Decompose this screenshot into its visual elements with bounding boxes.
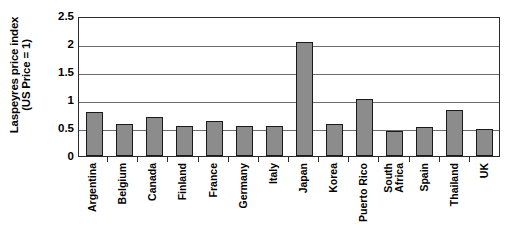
bar[interactable] xyxy=(326,124,343,156)
x-category-label: Argentina xyxy=(88,163,99,212)
bar[interactable] xyxy=(116,124,133,156)
bar-slot xyxy=(169,18,199,156)
x-category-label: Germany xyxy=(238,163,249,209)
x-axis-category-labels: ArgentinaBelgiumCanadaFinlandFranceGerma… xyxy=(78,163,500,247)
x-label-cell: Belgium xyxy=(108,163,138,247)
y-axis-title-line-1: Laspeyres price index xyxy=(8,17,20,134)
bar-slot xyxy=(289,18,319,156)
bar-slot xyxy=(439,18,469,156)
y-axis-title-line-2: (US Price = 1) xyxy=(20,39,32,111)
chart-figure: Laspeyres price index (US Price = 1) 00.… xyxy=(0,0,513,247)
x-category-label-line: Africa xyxy=(394,163,405,193)
bar-slot xyxy=(469,18,499,156)
x-label-cell: Japan xyxy=(289,163,319,247)
y-tick-label: 2 xyxy=(40,39,74,51)
bar-slot xyxy=(319,18,349,156)
y-axis-title: Laspeyres price index (US Price = 1) xyxy=(0,0,40,160)
x-label-cell: Puerto Rico xyxy=(349,163,379,247)
bar-slot xyxy=(229,18,259,156)
bar[interactable] xyxy=(206,121,223,156)
x-category-label: France xyxy=(208,163,219,197)
x-tick-mark xyxy=(168,157,198,162)
x-category-label: UK xyxy=(479,163,490,178)
bar-slot xyxy=(409,18,439,156)
bar[interactable] xyxy=(296,42,313,156)
x-tick-mark xyxy=(470,157,500,162)
x-category-label: Thailand xyxy=(449,163,460,206)
x-label-cell: Finland xyxy=(168,163,198,247)
y-axis-tick-labels: 00.511.522.5 xyxy=(38,0,74,247)
x-tick-mark xyxy=(379,157,409,162)
bar-slot xyxy=(109,18,139,156)
x-category-label-line: Korea xyxy=(328,163,340,193)
x-category-label: SouthAfrica xyxy=(383,163,405,193)
x-tick-mark xyxy=(349,157,379,162)
y-tick-label: 0 xyxy=(40,151,74,163)
x-category-label-line: Thailand xyxy=(448,163,460,206)
bar-series xyxy=(79,18,499,156)
x-tick-mark xyxy=(440,157,470,162)
bar-slot xyxy=(79,18,109,156)
x-label-cell: Italy xyxy=(259,163,289,247)
x-label-cell: Germany xyxy=(229,163,259,247)
x-category-label: Korea xyxy=(329,163,340,193)
x-tick-mark xyxy=(78,157,108,162)
bar[interactable] xyxy=(386,131,403,156)
y-tick-label: 1.5 xyxy=(40,67,74,79)
bar[interactable] xyxy=(146,117,163,156)
bar-slot xyxy=(139,18,169,156)
x-tick-mark xyxy=(289,157,319,162)
bar[interactable] xyxy=(476,129,493,156)
x-category-label-line: France xyxy=(207,163,219,197)
x-tick-mark xyxy=(229,157,259,162)
x-category-label: Spain xyxy=(419,163,430,192)
x-axis-tick-marks xyxy=(78,157,500,162)
x-label-cell: Argentina xyxy=(78,163,108,247)
bar-slot xyxy=(379,18,409,156)
bar[interactable] xyxy=(236,126,253,156)
x-category-label: Finland xyxy=(178,163,189,200)
x-label-cell: SouthAfrica xyxy=(379,163,409,247)
x-category-label-line: Belgium xyxy=(117,163,129,204)
x-tick-mark xyxy=(138,157,168,162)
x-category-label-line: Canada xyxy=(147,163,159,201)
x-category-label-line: UK xyxy=(478,163,490,178)
x-tick-mark xyxy=(108,157,138,162)
x-tick-mark xyxy=(199,157,229,162)
x-tick-mark xyxy=(410,157,440,162)
x-category-label-line: Germany xyxy=(237,163,249,209)
x-label-cell: Korea xyxy=(319,163,349,247)
bar[interactable] xyxy=(356,99,373,156)
x-category-label-line: Argentina xyxy=(87,163,99,212)
x-category-label: Japan xyxy=(299,163,310,193)
y-tick-label: 0.5 xyxy=(40,123,74,135)
plot-area xyxy=(78,17,500,157)
x-label-cell: France xyxy=(199,163,229,247)
x-category-label-line: Finland xyxy=(177,163,189,200)
x-label-cell: UK xyxy=(470,163,500,247)
y-tick-label: 1 xyxy=(40,95,74,107)
bar-slot xyxy=(259,18,289,156)
x-label-cell: Spain xyxy=(410,163,440,247)
bar[interactable] xyxy=(176,126,193,156)
x-category-label: Canada xyxy=(148,163,159,201)
x-category-label-line: Puerto Rico xyxy=(358,163,370,222)
y-tick-label: 2.5 xyxy=(40,11,74,23)
bar[interactable] xyxy=(416,127,433,156)
x-label-cell: Canada xyxy=(138,163,168,247)
x-category-label: Puerto Rico xyxy=(359,163,370,222)
x-tick-mark xyxy=(259,157,289,162)
x-category-label-line: Japan xyxy=(298,163,310,193)
x-category-label-line: Italy xyxy=(267,163,279,184)
x-category-label-line: Spain xyxy=(418,163,430,192)
bar[interactable] xyxy=(446,110,463,156)
bar-slot xyxy=(199,18,229,156)
x-label-cell: Thailand xyxy=(440,163,470,247)
x-category-label: Belgium xyxy=(118,163,129,204)
x-tick-mark xyxy=(319,157,349,162)
bar-slot xyxy=(349,18,379,156)
x-category-label: Italy xyxy=(268,163,279,184)
bar[interactable] xyxy=(266,126,283,156)
bar[interactable] xyxy=(86,112,103,156)
